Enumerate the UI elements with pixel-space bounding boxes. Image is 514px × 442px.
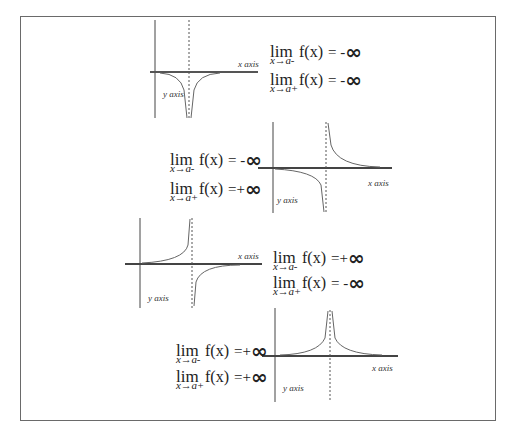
infinity-icon: ∞ bbox=[345, 40, 361, 64]
function-fx: f(x) bbox=[205, 343, 229, 359]
equals-sign: =+ bbox=[228, 181, 245, 197]
lim-subscript: x→a- bbox=[273, 261, 297, 272]
graph-4-curve-right bbox=[332, 311, 382, 355]
equals-sign: =+ bbox=[234, 369, 251, 385]
graph-3-curve-right bbox=[194, 265, 240, 306]
graph-1-limit-left: lim x→a- f(x) = -∞ bbox=[270, 43, 360, 69]
graph-3-y-axis-label: y axis bbox=[148, 293, 169, 303]
equals-sign: = - bbox=[328, 44, 345, 60]
equals-sign: =+ bbox=[234, 343, 251, 359]
graph-4-limit-right: lim x→a+ f(x) =+∞ bbox=[176, 368, 271, 394]
graph-4-y-axis-label: y axis bbox=[283, 383, 304, 393]
graph-1-x-axis-label: x axis bbox=[238, 59, 259, 69]
equals-sign: = - bbox=[328, 72, 345, 88]
function-fx: f(x) bbox=[302, 275, 326, 291]
infinity-icon: ∞ bbox=[348, 271, 364, 295]
graph-3-x-axis-label: x axis bbox=[238, 251, 259, 261]
function-fx: f(x) bbox=[205, 369, 229, 385]
lim-subscript: x→a+ bbox=[270, 83, 298, 94]
lim-subscript: x→a- bbox=[170, 163, 194, 174]
graph-3 bbox=[125, 218, 262, 308]
graph-2-limit-left: lim x→a- f(x) = -∞ bbox=[170, 151, 260, 177]
lim-subscript: x→a- bbox=[270, 55, 294, 66]
infinity-icon: ∞ bbox=[245, 177, 261, 201]
graph-2-limit-right: lim x→a+ f(x) =+∞ bbox=[170, 180, 265, 206]
infinity-icon: ∞ bbox=[348, 246, 364, 270]
function-fx: f(x) bbox=[299, 72, 323, 88]
graph-3-limit-right: lim x→a+ f(x) = -∞ bbox=[273, 274, 363, 300]
graph-2-curve-left bbox=[275, 169, 324, 212]
function-fx: f(x) bbox=[199, 152, 223, 168]
equals-sign: = - bbox=[331, 275, 348, 291]
lim-subscript: x→a- bbox=[176, 354, 200, 365]
function-fx: f(x) bbox=[199, 181, 223, 197]
graph-4-curve-left bbox=[280, 311, 328, 355]
graph-1-limit-right: lim x→a+ f(x) = -∞ bbox=[270, 71, 360, 97]
equals-sign: = - bbox=[228, 152, 245, 168]
graph-3-curve-left bbox=[142, 219, 190, 263]
graph-4-x-axis-label: x axis bbox=[372, 363, 393, 373]
lim-subscript: x→a+ bbox=[170, 192, 198, 203]
graph-2-curve-right bbox=[328, 123, 380, 167]
infinity-icon: ∞ bbox=[251, 365, 267, 389]
graph-2-y-axis-label: y axis bbox=[277, 195, 298, 205]
graph-1-curve-right bbox=[191, 73, 220, 118]
function-fx: f(x) bbox=[299, 44, 323, 60]
infinity-icon: ∞ bbox=[245, 148, 261, 172]
infinity-icon: ∞ bbox=[345, 68, 361, 92]
function-fx: f(x) bbox=[302, 250, 326, 266]
graph-1 bbox=[150, 20, 258, 118]
lim-subscript: x→a+ bbox=[176, 380, 204, 391]
infinity-icon: ∞ bbox=[251, 339, 267, 363]
lim-subscript: x→a+ bbox=[273, 286, 301, 297]
equals-sign: =+ bbox=[331, 250, 348, 266]
graph-2-x-axis-label: x axis bbox=[368, 178, 389, 188]
graph-1-y-axis-label: y axis bbox=[163, 89, 184, 99]
